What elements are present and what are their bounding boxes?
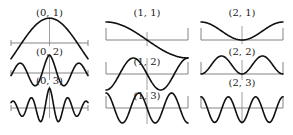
mode-panel-p03: (0, 3)	[11, 75, 88, 122]
mode-label: (2, 3)	[229, 77, 256, 88]
mode-panel-p12: (1, 2)	[106, 56, 188, 90]
mode-shapes-diagram: (0, 1)(0, 2)(0, 3)(1, 1)(1, 2)(1, 3)(2, …	[0, 0, 293, 135]
mode-label: (1, 2)	[134, 56, 161, 67]
mode-label: (2, 2)	[229, 46, 256, 57]
mode-label: (0, 1)	[36, 7, 63, 18]
mode-label: (0, 2)	[36, 46, 63, 57]
mode-label: (1, 3)	[134, 90, 161, 101]
mode-panel-p21: (2, 1)	[201, 7, 283, 44]
mode-label: (2, 1)	[229, 7, 256, 18]
mode-panel-p23: (2, 3)	[201, 77, 283, 124]
mode-panel-p11: (1, 1)	[106, 7, 188, 58]
panels-group: (0, 1)(0, 2)(0, 3)(1, 1)(1, 2)(1, 3)(2, …	[11, 7, 283, 124]
mode-label: (1, 1)	[134, 7, 161, 18]
mode-label: (0, 3)	[36, 75, 63, 86]
mode-panel-p13: (1, 3)	[106, 90, 188, 124]
mode-panel-p22: (2, 2)	[201, 46, 283, 80]
